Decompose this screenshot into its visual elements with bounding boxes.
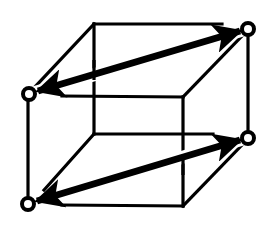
node-front-top-left [23,88,35,100]
edge-top-front [62,96,183,97]
edge-bottom-front [62,205,183,206]
arrow-gaps [29,29,246,204]
node-front-bottom-left [22,198,34,210]
nodes [22,23,254,210]
bottom-diagonal-arrow [37,140,240,201]
node-back-bottom-right [242,132,254,144]
cube-diagram [0,0,270,228]
top-diagonal-arrow [38,31,240,91]
node-back-top-right [242,23,254,35]
cube-edges [28,24,248,206]
